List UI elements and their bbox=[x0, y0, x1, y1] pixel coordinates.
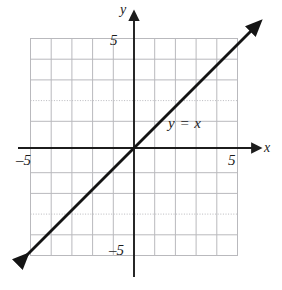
x-axis-tick-label-5: 5 bbox=[228, 153, 236, 168]
equation-annotation: y = x bbox=[168, 116, 201, 131]
x-axis-label: x bbox=[264, 141, 270, 155]
x-axis-tick-label-negative-5: –5 bbox=[16, 153, 31, 168]
coordinate-plane bbox=[0, 0, 282, 290]
y-axis-tick-label-5: 5 bbox=[110, 33, 118, 48]
y-axis-tick-label-negative-5: –5 bbox=[109, 243, 124, 258]
graph-figure: 5 –5 5 –5 y x y = x bbox=[0, 0, 282, 290]
y-axis-label: y bbox=[120, 3, 126, 17]
